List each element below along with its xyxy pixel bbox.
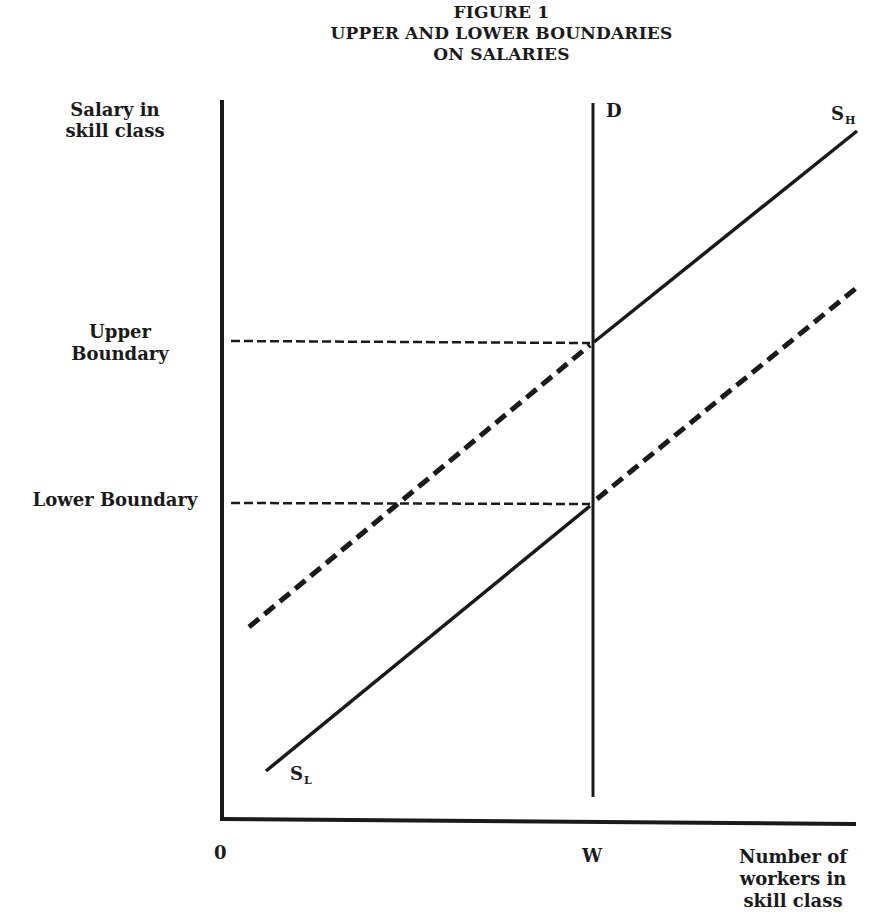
- x-tick-w-label: W: [582, 845, 602, 867]
- sl-label-subscript: L: [304, 774, 312, 787]
- y-axis-label-line1: Salary in: [40, 99, 190, 120]
- lower-boundary-label: Lower Boundary: [20, 489, 210, 511]
- lower-boundary-guide: [231, 503, 590, 504]
- y-axis-label: Salary in skill class: [40, 99, 190, 141]
- sh-label-main: S: [831, 103, 844, 124]
- sh-label: SH: [831, 103, 855, 128]
- sh-curve-solid: [594, 131, 857, 342]
- x-axis-label-line1: Number of: [718, 846, 868, 868]
- upper-boundary-label-line2: Boundary: [45, 343, 195, 365]
- upper-boundary-label: Upper Boundary: [45, 321, 195, 365]
- demand-label: D: [606, 100, 622, 122]
- sh-curve-dashed: [249, 345, 590, 627]
- x-axis: [220, 819, 856, 824]
- x-axis-label-line3: skill class: [718, 890, 868, 912]
- x-axis-label-line2: workers in: [718, 868, 868, 890]
- sh-label-subscript: H: [845, 114, 855, 127]
- sl-curve-solid: [266, 506, 590, 771]
- y-axis-label-line2: skill class: [40, 120, 190, 141]
- sl-curve-dashed: [597, 285, 860, 499]
- x-axis-label: Number of workers in skill class: [718, 846, 868, 912]
- upper-boundary-guide: [231, 341, 590, 343]
- sl-label: SL: [290, 763, 312, 788]
- upper-boundary-label-line1: Upper: [45, 321, 195, 343]
- sl-label-main: S: [290, 763, 303, 784]
- origin-label: 0: [214, 842, 227, 864]
